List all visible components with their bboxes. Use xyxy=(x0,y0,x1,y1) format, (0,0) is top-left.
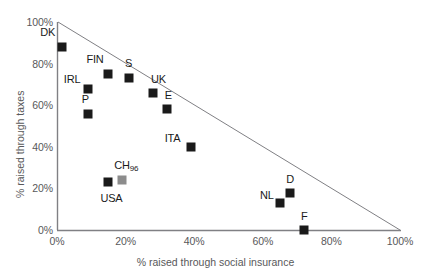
data-point-marker xyxy=(299,226,308,235)
y-axis-title: % raised through taxes xyxy=(14,91,26,198)
data-point-label: FIN xyxy=(86,53,103,65)
x-tick-label: 100% xyxy=(387,235,413,247)
x-tick-label: 40% xyxy=(184,235,205,247)
data-point-label: D xyxy=(286,173,294,185)
data-point-marker xyxy=(286,188,295,197)
y-tick-label: 80% xyxy=(32,58,53,70)
data-point-marker xyxy=(118,176,127,185)
data-point-marker xyxy=(162,105,171,114)
x-axis-title: % raised through social insurance xyxy=(0,256,431,268)
y-tick-label: 20% xyxy=(32,182,53,194)
x-tick-label: 20% xyxy=(115,235,136,247)
data-point-label: DK xyxy=(40,26,55,38)
data-point-label: ITA xyxy=(165,132,181,144)
data-point-marker xyxy=(186,142,195,151)
data-point-marker xyxy=(275,198,284,207)
data-point-marker xyxy=(104,178,113,187)
data-point-label: UK xyxy=(151,73,166,85)
data-point-label: F xyxy=(301,210,308,222)
data-point-label: IRL xyxy=(64,73,81,85)
data-point-label: CH96 xyxy=(114,159,138,171)
data-point-label: P xyxy=(82,93,89,105)
data-point-label: USA xyxy=(100,192,122,204)
data-point-label: NL xyxy=(260,189,274,201)
data-point-marker xyxy=(149,88,158,97)
data-point-marker xyxy=(104,70,113,79)
x-tick-label: 0% xyxy=(50,235,65,247)
data-point-marker xyxy=(125,74,134,83)
y-tick-label: 40% xyxy=(32,141,53,153)
scatter-chart: 0%20%40%60%80%100% 0%20%40%60%80%100% DK… xyxy=(0,0,431,277)
data-point-marker xyxy=(58,42,67,51)
data-point-label: E xyxy=(165,89,172,101)
data-point-label: S xyxy=(125,57,132,69)
x-tick-label: 80% xyxy=(321,235,342,247)
x-tick-label: 60% xyxy=(252,235,273,247)
y-tick-label: 60% xyxy=(32,99,53,111)
data-point-marker xyxy=(83,109,92,118)
